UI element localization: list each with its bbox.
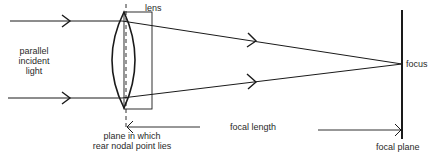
focal-length-label: focal length <box>230 122 276 132</box>
refracted-ray-top <box>122 21 402 64</box>
refracted-ray-bottom <box>122 64 402 98</box>
incident-light-label: parallel incident light <box>14 46 54 76</box>
arrow-icon <box>247 74 256 89</box>
lens-shape <box>112 12 135 108</box>
lens-label: lens <box>145 3 162 13</box>
focal-plane-label: focal plane <box>376 142 420 152</box>
focus-label: focus <box>406 59 428 69</box>
nodal-plane-label: plane in which rear nodal point lies <box>82 131 182 151</box>
lens-diagram <box>0 0 435 160</box>
